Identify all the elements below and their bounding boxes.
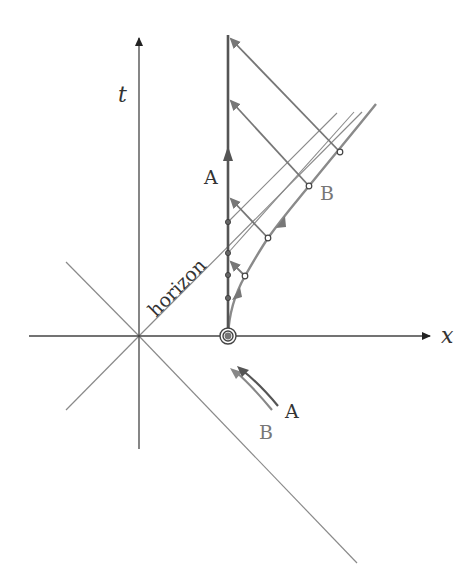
null-line xyxy=(228,112,354,253)
arrow-on-worldline-b xyxy=(232,287,242,300)
t-axis-label: t xyxy=(118,82,127,107)
event-dot xyxy=(225,250,230,255)
event-dot xyxy=(225,272,230,277)
event-dot xyxy=(225,295,230,300)
signal-line xyxy=(231,39,340,152)
light-cone-lower-left xyxy=(66,336,139,410)
arrow-on-worldline-a xyxy=(223,146,233,161)
observer-b-label: B xyxy=(320,182,334,204)
light-cone-upper-left xyxy=(66,262,139,336)
legend-b-label: B xyxy=(259,421,273,443)
start-event-marker xyxy=(220,328,236,344)
horizon-label: horizon xyxy=(143,254,210,321)
event-dot xyxy=(225,219,230,224)
legend-a-label: A xyxy=(284,400,299,422)
parallel-null-lines xyxy=(228,112,354,253)
signal-line xyxy=(231,199,268,238)
event-dot xyxy=(337,149,343,155)
legend-arrow-a xyxy=(242,370,278,406)
observer-a-label: A xyxy=(203,166,218,188)
null-line xyxy=(228,113,337,222)
spacetime-diagram: t x A B horizon A B xyxy=(0,0,474,587)
arrow-on-worldline-b xyxy=(276,216,286,228)
signal-line xyxy=(231,101,309,186)
legend-arrow-b xyxy=(236,372,272,410)
light-signals xyxy=(231,39,340,276)
x-axis-label: x xyxy=(441,323,454,348)
direction-legend xyxy=(230,366,278,410)
event-dot xyxy=(306,183,312,189)
event-dot xyxy=(265,235,271,241)
event-dot xyxy=(242,273,248,279)
